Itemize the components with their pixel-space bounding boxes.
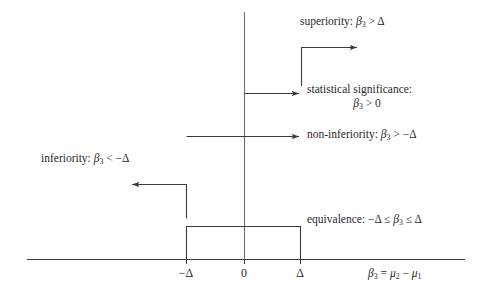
superiority-arrow <box>302 48 358 87</box>
tick-label-neg-delta: −Δ <box>179 266 193 281</box>
label-statistical-significance: statistical significance: <box>307 83 412 96</box>
diagram-canvas <box>0 0 486 300</box>
label-inferiority: inferiority: β3 < −Δ <box>41 152 129 165</box>
label-non-inferiority: non-inferiority: β3 > −Δ <box>307 128 417 141</box>
tick-label-pos-delta: Δ <box>296 266 304 281</box>
inferiority-arrow <box>132 185 187 219</box>
hypothesis-regions-diagram: superiority: β3 > Δ statistical signific… <box>0 0 486 300</box>
label-superiority: superiority: β3 > Δ <box>300 15 385 28</box>
label-statistical-significance-condition: β3 > 0 <box>307 97 427 110</box>
label-x-axis: β3 = μ2 − μ1 <box>368 267 422 280</box>
equivalence-region-box <box>187 227 301 260</box>
label-equivalence: equivalence: −Δ ≤ β3 ≤ Δ <box>307 213 422 226</box>
tick-label-zero: 0 <box>241 266 247 281</box>
